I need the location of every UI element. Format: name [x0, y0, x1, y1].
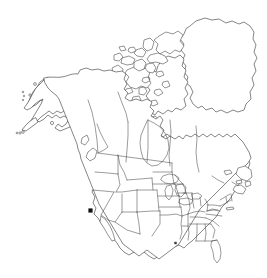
north-america-map-svg [0, 0, 267, 278]
aleutian-island-1 [22, 131, 25, 134]
bathurst-island-outline [134, 48, 146, 57]
ellesmere-island-outline [154, 31, 184, 54]
pribilof-island-2 [23, 95, 24, 96]
cape-breton-outline [245, 181, 251, 187]
st-lawrence-island [34, 83, 37, 86]
alaska-peninsula-outline [22, 118, 38, 131]
king-william-island-outline [139, 87, 147, 95]
distribution-map-figure [0, 0, 267, 278]
prince-edward-island-outline [236, 180, 242, 184]
axel-heiberg-island-outline [143, 38, 154, 51]
melville-island-outline [121, 56, 135, 65]
pribilof-island-3 [22, 99, 23, 100]
greenland-outline [180, 18, 257, 113]
arctic-islet-g [119, 46, 126, 51]
aleutian-island-3 [16, 132, 18, 134]
aleutian-island-2 [19, 132, 21, 134]
occurrence-point-california [88, 208, 92, 212]
kodiak-island [50, 121, 53, 124]
nunivak-island [29, 94, 31, 96]
pribilof-island-1 [22, 91, 24, 93]
florida-peninsula-outline [211, 240, 221, 263]
nova-scotia-outline [233, 185, 246, 194]
occurrence-point-gulf-coast [174, 242, 176, 244]
long-island-outline [226, 207, 234, 210]
border-ga-sc [211, 224, 215, 238]
devon-island-outline [147, 53, 168, 64]
